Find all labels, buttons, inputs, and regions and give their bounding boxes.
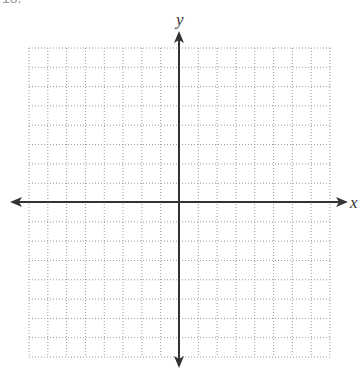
- y-axis-label: y: [176, 10, 184, 30]
- y-axis: [174, 31, 184, 368]
- coordinate-grid: [0, 0, 359, 369]
- x-axis-label: x: [350, 193, 358, 213]
